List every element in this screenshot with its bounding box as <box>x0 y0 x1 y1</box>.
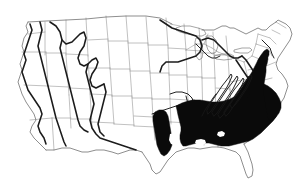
us-range-map-svg <box>0 0 306 189</box>
distribution-map-figure <box>0 0 306 189</box>
